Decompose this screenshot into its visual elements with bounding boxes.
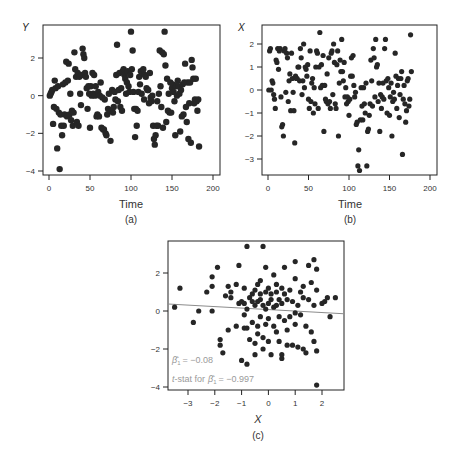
data-point <box>244 307 249 312</box>
panel-c-caption: (c) <box>252 430 264 441</box>
data-point <box>289 51 294 56</box>
data-point <box>395 83 400 88</box>
data-point <box>325 295 330 300</box>
y-tick-label: 0 <box>31 92 36 101</box>
data-point <box>309 329 314 334</box>
data-point <box>361 85 366 90</box>
data-point <box>346 113 351 118</box>
data-point <box>282 46 287 51</box>
data-point <box>210 274 215 279</box>
panel-a-caption: (a) <box>125 214 137 225</box>
panel-b-points <box>266 30 414 173</box>
data-point <box>282 318 287 323</box>
data-point <box>196 308 201 313</box>
data-point <box>107 138 113 144</box>
data-point <box>61 123 67 129</box>
data-point <box>188 140 194 146</box>
data-point <box>218 337 223 342</box>
data-point <box>285 297 290 302</box>
data-point <box>172 305 177 310</box>
data-point <box>309 280 314 285</box>
data-point <box>352 94 357 99</box>
data-point <box>290 343 295 348</box>
panel-a-x-axis: 050100150200 <box>47 175 220 193</box>
data-point <box>242 312 247 317</box>
x-tick-label: 100 <box>342 184 356 193</box>
data-point <box>128 28 134 34</box>
panel-a-y-label: Y <box>22 22 30 33</box>
data-point <box>81 55 87 61</box>
data-point <box>347 97 352 102</box>
data-point <box>287 314 292 319</box>
data-point <box>404 108 409 113</box>
tstat-annotation: t-stat forβ̂1= −0.997 <box>172 374 254 385</box>
data-point <box>383 37 388 42</box>
panel-c: −4−202 −3−2−1012 β̂1= −0.08 t-stat forβ̂… <box>151 241 344 441</box>
data-point <box>299 92 304 97</box>
data-point <box>125 83 131 89</box>
data-point <box>129 47 135 53</box>
data-point <box>394 106 399 111</box>
data-point <box>258 314 263 319</box>
data-point <box>355 163 360 168</box>
data-point <box>364 163 369 168</box>
panel-b: X −3−2−1012 050100150200 Time (b) <box>237 22 437 225</box>
data-point <box>87 124 93 130</box>
x-tick-label: −3 <box>183 399 193 408</box>
data-point <box>399 69 404 74</box>
data-point <box>293 276 298 281</box>
data-point <box>252 352 257 357</box>
data-point <box>279 286 284 291</box>
panel-a: Y −4−202 050100150200 Time (a) <box>22 22 220 225</box>
data-point <box>196 143 202 149</box>
data-point <box>409 69 414 74</box>
data-point <box>291 90 296 95</box>
data-point <box>306 297 311 302</box>
y-tick-label: 1 <box>250 63 255 72</box>
data-point <box>70 109 76 115</box>
data-point <box>118 85 124 91</box>
data-point <box>398 76 403 81</box>
figure-canvas: Y −4−202 050100150200 Time (a) X −3−2−10… <box>0 0 457 454</box>
data-point <box>138 91 144 97</box>
data-point <box>56 166 62 172</box>
data-point <box>161 51 167 57</box>
data-point <box>406 76 411 81</box>
data-point <box>335 48 340 53</box>
data-point <box>274 289 279 294</box>
data-point <box>401 83 406 88</box>
data-point <box>277 339 282 344</box>
data-point <box>260 244 265 249</box>
data-point <box>54 145 60 151</box>
data-point <box>320 53 325 58</box>
data-point <box>234 282 239 287</box>
x-tick-label: 1 <box>293 399 298 408</box>
data-point <box>274 329 279 334</box>
data-point <box>311 110 316 115</box>
data-point <box>258 297 263 302</box>
data-point <box>303 67 308 72</box>
data-point <box>177 286 182 291</box>
data-point <box>268 352 273 357</box>
data-point <box>268 291 273 296</box>
data-point <box>102 96 108 102</box>
data-point <box>397 92 402 97</box>
data-point <box>333 101 338 106</box>
data-point <box>350 53 355 58</box>
data-point <box>279 356 284 361</box>
data-point <box>287 71 292 76</box>
data-point <box>306 263 311 268</box>
y-tick-label: 0 <box>250 86 255 95</box>
data-point <box>274 282 279 287</box>
data-point <box>210 284 215 289</box>
data-point <box>215 265 220 270</box>
data-point <box>250 320 255 325</box>
data-point <box>266 286 271 291</box>
data-point <box>282 265 287 270</box>
data-point <box>226 284 231 289</box>
data-point <box>302 85 307 90</box>
data-point <box>266 339 271 344</box>
panel-a-y-axis: −4−202 <box>26 54 43 176</box>
panel-a-points <box>47 28 203 172</box>
y-tick-label: −1 <box>245 109 255 118</box>
